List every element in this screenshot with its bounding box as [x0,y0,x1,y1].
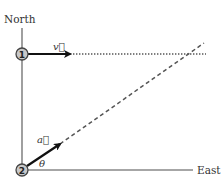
point-2-label: 2 [19,166,25,176]
point-1-marker: 1 [16,48,28,60]
north-label: North [4,13,36,25]
angle-theta-label: θ [39,158,45,169]
velocity-label: v⃗ [53,41,65,52]
east-label: East [197,164,221,176]
point-2-marker: 2 [16,164,28,176]
acceleration-path-dashed [60,43,204,144]
acceleration-label: a⃗ [37,134,49,145]
kinematics-diagram: 1 2 North East v⃗ a⃗ θ [0,0,222,183]
point-1-label: 1 [19,50,25,60]
